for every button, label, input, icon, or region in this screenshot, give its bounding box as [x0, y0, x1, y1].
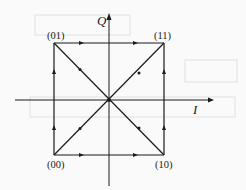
point-label-11: (11): [154, 30, 172, 42]
arrow-icon: [79, 41, 84, 45]
arrow-icon: [79, 68, 82, 71]
arrow-icon: [79, 127, 82, 130]
arrow-icon: [133, 153, 138, 157]
arrow-icon: [52, 69, 56, 74]
arrow-icon: [52, 125, 56, 130]
arrow-icon: [162, 125, 166, 130]
i-axis-arrow-icon: [208, 98, 214, 103]
point-label-00: (00): [47, 159, 65, 171]
point-label-10: (10): [155, 159, 173, 171]
point-label-01: (01): [47, 30, 65, 42]
arrow-icon: [79, 153, 84, 157]
arrow-icon: [162, 69, 166, 74]
arrow-icon: [138, 72, 141, 75]
i-axis: [15, 98, 214, 103]
i-axis-label: I: [192, 102, 198, 117]
q-axis-arrow-icon: [107, 13, 112, 20]
origin-marker: [107, 98, 111, 102]
q-axis-label: Q: [97, 13, 107, 28]
arrow-icon: [133, 41, 138, 45]
arrow-icon: [138, 127, 141, 130]
qpsk-diagram: I Q (01) (11) (0: [0, 0, 246, 190]
